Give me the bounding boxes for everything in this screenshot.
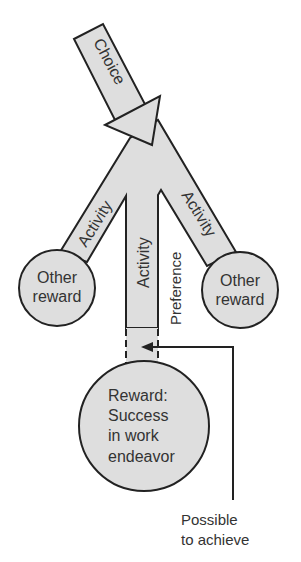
possible-to-achieve-annotation: Possible to achieve (181, 511, 249, 548)
svg-text:Other: Other (220, 272, 261, 289)
svg-text:reward: reward (216, 291, 265, 308)
activity-center-label: Activity (135, 237, 152, 288)
svg-text:Success: Success (108, 407, 168, 424)
svg-text:in work: in work (108, 427, 160, 444)
other-reward-left: Other reward (19, 250, 95, 326)
svg-text:to achieve: to achieve (181, 531, 249, 548)
other-reward-right: Other reward (202, 252, 278, 328)
svg-text:endeavor: endeavor (108, 448, 175, 465)
preference-label: Preference (167, 252, 184, 325)
motivation-diagram: Choice Activity Activity Activity Prefer… (0, 0, 301, 562)
svg-text:Possible: Possible (181, 511, 238, 528)
svg-text:reward: reward (33, 288, 82, 305)
svg-text:Other: Other (37, 269, 78, 286)
svg-text:Reward:: Reward: (108, 387, 168, 404)
main-reward-circle: Reward: Success in work endeavor (79, 361, 209, 491)
